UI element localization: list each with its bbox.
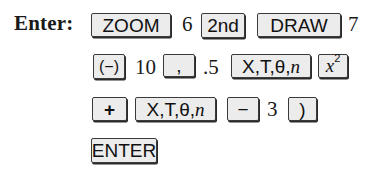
comma-key: , [163, 54, 195, 77]
enter-key-label: ENTER [92, 141, 156, 160]
value-7: 7 [348, 14, 359, 35]
minus-key-label: − [237, 100, 248, 119]
value-10: 10 [135, 57, 156, 78]
close-paren-key-label: ) [299, 100, 305, 119]
x-squared-key: x2 [318, 54, 348, 78]
minus-key: − [227, 97, 259, 121]
plus-key: + [92, 97, 127, 121]
xt-theta-n-key-2-label: X,T,θ,n [146, 100, 204, 119]
enter-label: Enter: [14, 11, 74, 36]
value-3: 3 [267, 99, 278, 120]
second-key-label: 2nd [207, 16, 239, 35]
close-paren-key: ) [288, 97, 317, 121]
comma-key-label: , [176, 56, 181, 75]
value-point-5: .5 [203, 57, 219, 78]
draw-key-label: DRAW [270, 16, 327, 35]
value-6: 6 [182, 14, 193, 35]
plus-key-label: + [104, 100, 115, 119]
xt-theta-n-key-label: X,T,θ,n [242, 57, 300, 76]
negative-key: (−) [93, 54, 125, 79]
xt-theta-n-key: X,T,θ,n [231, 54, 311, 78]
xt-theta-n-key-2: X,T,θ,n [135, 97, 216, 121]
x-squared-key-label: x2 [326, 56, 341, 75]
enter-key: ENTER [91, 138, 157, 163]
draw-key: DRAW [257, 13, 341, 37]
zoom-key: ZOOM [91, 13, 171, 37]
zoom-key-label: ZOOM [103, 16, 160, 35]
negative-key-label: (−) [99, 59, 119, 75]
second-key: 2nd [201, 13, 245, 38]
